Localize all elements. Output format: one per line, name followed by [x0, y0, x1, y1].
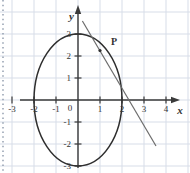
- y-tick-label-neg2: -2: [64, 139, 72, 149]
- point-label-p: P: [111, 36, 117, 47]
- x-axis-arrow: [171, 97, 180, 103]
- x-tick-label-1: 1: [98, 104, 103, 114]
- x-tick-label-3: 3: [142, 104, 147, 114]
- tangent-line: [82, 21, 156, 146]
- origin-label: 0: [68, 103, 73, 113]
- ellipse-tangent-figure: -3 -2 -1 1 2 3 4 3 2 1 -1 -2 -3 0 y x P: [0, 0, 190, 173]
- y-tick-label-neg3: -3: [64, 161, 72, 171]
- x-tick-label-neg3: -3: [8, 104, 16, 114]
- y-tick-label-neg1: -1: [64, 117, 72, 127]
- y-tick-label-1: 1: [67, 73, 72, 83]
- tangent-point-marker: [98, 49, 101, 52]
- grid-lines: [0, 0, 190, 173]
- y-tick-label-3: 3: [67, 29, 72, 39]
- x-tick-label-2: 2: [120, 104, 125, 114]
- x-tick-label-neg2: -2: [30, 104, 38, 114]
- x-axis-label: x: [176, 104, 183, 116]
- y-axis-label: y: [67, 10, 74, 22]
- figure-canvas: -3 -2 -1 1 2 3 4 3 2 1 -1 -2 -3 0 y x P: [0, 0, 190, 173]
- y-axis-arrow: [75, 5, 81, 14]
- y-tick-label-2: 2: [67, 51, 72, 61]
- x-tick-label-neg1: -1: [52, 104, 60, 114]
- x-tick-label-4: 4: [164, 104, 169, 114]
